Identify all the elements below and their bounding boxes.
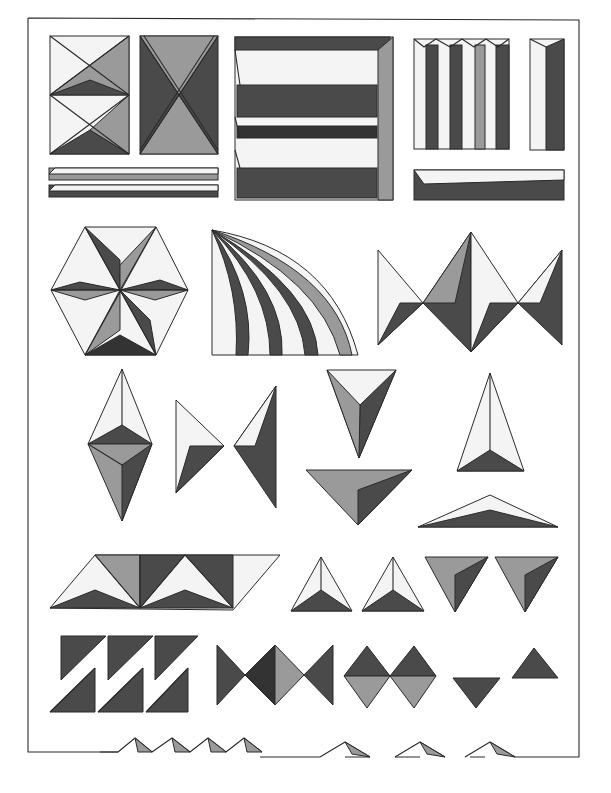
upright-triangle-pyramid-a: [291, 557, 352, 611]
profile-zigzag-a: [100, 738, 262, 752]
horizontal-bar-pair: [49, 168, 218, 197]
small-upright-triangle: [512, 648, 558, 678]
inverted-triangle-pyramid-b: [495, 557, 558, 612]
upright-tall-pyramid: [457, 373, 524, 471]
inverted-triangle-pyramid-a: [425, 557, 488, 612]
horizontal-bar: [414, 170, 564, 200]
zigzag-sawtooth-band: [50, 636, 198, 712]
profile-zigzag-b: [320, 742, 515, 757]
left-pointing-pyramid: [234, 386, 276, 508]
horizontal-prism-panel: [235, 37, 393, 200]
right-pointing-pyramid: [176, 400, 224, 493]
quarter-fan-flutes: [212, 230, 358, 355]
x-pyramid-square: [140, 36, 218, 154]
flat-wide-pyramid: [418, 495, 558, 527]
bowtie-pyramid-band: [378, 232, 562, 352]
wide-inverted-triangle: [306, 470, 412, 525]
double-pyramid-diamond: [88, 369, 152, 521]
ornament-plate: [0, 0, 611, 793]
bowtie-pyramid-strip: [217, 645, 333, 705]
split-pyramid-square: [50, 36, 129, 154]
double-diamond-pair: [344, 646, 436, 708]
small-inverted-triangle: [453, 678, 500, 708]
vertical-fluted-panel: [414, 39, 509, 149]
single-vertical-prism: [530, 39, 564, 150]
inverted-triangle-pyramid: [327, 370, 396, 458]
parallelogram-pyramid-band: [50, 555, 280, 610]
hexagonal-star-rosette: [51, 227, 188, 355]
upright-triangle-pyramid-b: [362, 557, 424, 611]
